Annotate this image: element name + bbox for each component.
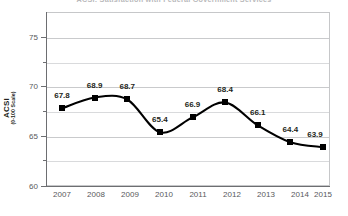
chart-title: ACSI: Satisfaction with Federal Governme…: [0, 0, 348, 4]
x-axis-tick-label: 2015: [303, 190, 343, 199]
gridline-major-75: [47, 38, 329, 39]
y-tick-67-5: [43, 111, 46, 112]
y-tick-62-5: [43, 160, 46, 161]
y-axis-tick-label: 75: [0, 33, 38, 42]
data-point-marker: [92, 95, 98, 101]
data-point-label: 63.9: [295, 130, 335, 139]
gridline-minor-62-5: [47, 161, 329, 162]
y-tick-75: [41, 37, 46, 38]
data-point-label: 66.1: [238, 108, 278, 117]
data-point-marker: [255, 122, 261, 128]
data-point-label: 67.8: [42, 91, 82, 100]
data-point-label: 66.9: [173, 100, 213, 109]
y-axis-title-sub: (0-100 Scale): [11, 63, 16, 153]
data-point-label: 68.7: [107, 82, 147, 91]
gridline-minor-67-5: [47, 112, 329, 113]
data-point-marker: [222, 99, 228, 105]
data-point-marker: [287, 139, 293, 145]
x-axis-line: [46, 186, 330, 187]
y-tick-70: [41, 86, 46, 87]
data-point-marker: [157, 129, 163, 135]
data-point-marker: [190, 114, 196, 120]
y-tick-60: [41, 186, 46, 187]
y-axis-title: ACSI (0-100 Scale): [3, 63, 17, 153]
y-tick-72-5: [43, 62, 46, 63]
y-axis-tick-label: 60: [0, 182, 38, 191]
gridline-minor-72-5: [47, 63, 329, 64]
data-point-marker: [59, 105, 65, 111]
gridline-major-65: [47, 137, 329, 138]
data-point-marker: [320, 144, 326, 150]
data-point-marker: [124, 96, 130, 102]
data-point-label: 68.4: [205, 85, 245, 94]
data-point-label: 65.4: [140, 115, 180, 124]
y-tick-65: [41, 136, 46, 137]
plot-area: [46, 12, 330, 186]
